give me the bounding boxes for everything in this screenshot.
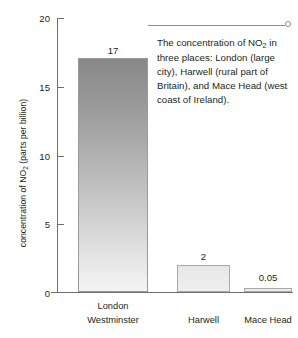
annotation-text-subscript: 2 bbox=[263, 41, 267, 50]
annotation-leader-endpoint-circle-icon bbox=[285, 21, 291, 27]
bar-mace-head[interactable] bbox=[244, 288, 292, 292]
y-axis-title-subscript: 2 bbox=[22, 166, 29, 170]
y-tick-mark-15 bbox=[58, 87, 64, 88]
x-category-label-london-line2: Westminster bbox=[87, 314, 139, 328]
x-category-label-london-line1: London bbox=[87, 300, 139, 314]
y-tick-mark-20 bbox=[58, 18, 64, 19]
x-category-label-harwell-line1: Harwell bbox=[188, 314, 219, 328]
x-category-label-mace-head-line1: Mace Head bbox=[244, 314, 292, 328]
x-category-label-harwell: Harwell bbox=[188, 314, 219, 328]
bar-london-westminster[interactable] bbox=[78, 58, 148, 292]
bar-value-london-westminster: 17 bbox=[108, 45, 119, 56]
annotation-leader-line bbox=[148, 25, 285, 26]
y-axis-title: concentration of NO2 (parts per billion) bbox=[18, 58, 28, 288]
y-axis-title-pre: concentration of NO bbox=[18, 170, 28, 247]
x-axis-line bbox=[51, 292, 293, 293]
x-category-label-mace-head: Mace Head bbox=[244, 314, 292, 328]
y-axis-title-post: (parts per billion) bbox=[18, 99, 28, 166]
annotation-text: The concentration of NO2 in three places… bbox=[157, 36, 293, 107]
chart-figure: concentration of NO2 (parts per billion)… bbox=[0, 0, 298, 338]
bar-harwell[interactable] bbox=[177, 265, 230, 293]
y-tick-label-0: 0 bbox=[45, 288, 50, 299]
x-category-label-london-westminster: London Westminster bbox=[87, 300, 139, 327]
bar-value-mace-head: 0.05 bbox=[259, 272, 278, 283]
bar-value-harwell: 2 bbox=[201, 251, 206, 262]
y-tick-mark-5 bbox=[58, 224, 64, 225]
y-tick-label-5: 5 bbox=[45, 219, 50, 230]
annotation-text-pre: The concentration of NO bbox=[157, 37, 263, 48]
y-tick-label-15: 15 bbox=[39, 81, 50, 92]
y-tick-mark-10 bbox=[58, 156, 64, 157]
y-tick-label-10: 10 bbox=[39, 150, 50, 161]
y-tick-label-20: 20 bbox=[39, 13, 50, 24]
